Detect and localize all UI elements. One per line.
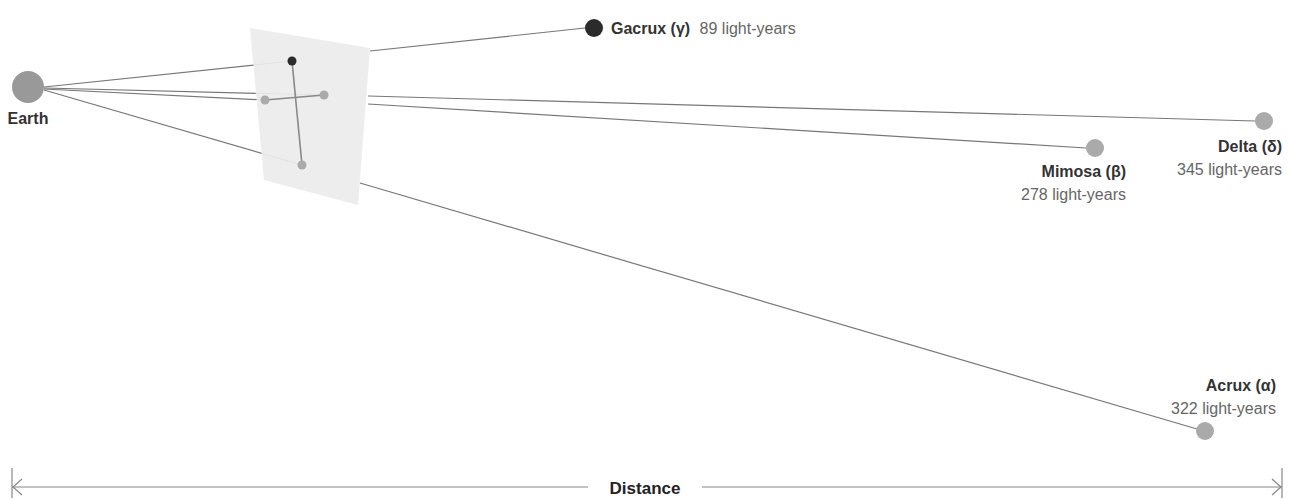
star-delta-icon (1255, 112, 1273, 130)
sight-lines-far (360, 28, 1255, 429)
projected-point-gamma (288, 57, 297, 66)
star-gamma-distance: 89 light-years (700, 20, 796, 37)
star-delta-name: Delta (δ) (1218, 138, 1282, 155)
star-gacrux: Gacrux (γ) 89 light-years (585, 19, 796, 37)
projected-point-alpha (298, 161, 307, 170)
star-gamma-icon (585, 19, 603, 37)
earth: Earth (8, 71, 49, 127)
star-alpha-icon (1196, 422, 1214, 440)
projection-plane (250, 28, 370, 205)
axis-label-distance: Distance (610, 479, 681, 498)
star-distance-diagram: Earth Gacrux (γ) 89 light-years Mimosa (… (0, 0, 1289, 499)
star-beta-name: Mimosa (β) (1042, 163, 1126, 180)
sight-line-beta-far (368, 104, 1086, 148)
star-gamma-name: Gacrux (γ) (611, 20, 690, 37)
star-acrux: Acrux (α) 322 light-years (1171, 377, 1276, 440)
star-alpha-distance: 322 light-years (1171, 400, 1276, 417)
star-mimosa: Mimosa (β) 278 light-years (1021, 139, 1126, 203)
star-delta-distance: 345 light-years (1177, 161, 1282, 178)
star-delta: Delta (δ) 345 light-years (1177, 112, 1282, 178)
projected-point-beta (261, 96, 270, 105)
projected-point-delta (320, 91, 329, 100)
sight-line-alpha-far (360, 183, 1197, 429)
star-gamma-text: Gacrux (γ) 89 light-years (611, 20, 796, 37)
earth-icon (12, 71, 44, 103)
star-beta-distance: 278 light-years (1021, 186, 1126, 203)
sight-line-gamma-far (370, 28, 585, 51)
star-beta-icon (1086, 139, 1104, 157)
star-alpha-name: Acrux (α) (1206, 377, 1276, 394)
sight-line-delta-far (368, 96, 1255, 121)
earth-label: Earth (8, 110, 49, 127)
